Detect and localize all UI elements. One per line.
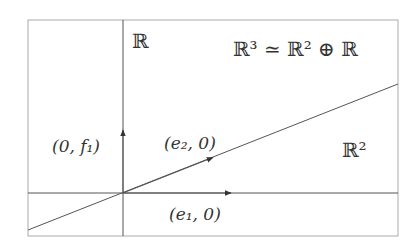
label-plane: ℝ² <box>342 138 367 162</box>
diagram-canvas: ℝ ℝ³ ≃ ℝ² ⊕ ℝ ℝ² (0, f₁) (e₂, 0) (e₁, 0) <box>0 0 416 251</box>
label-horizontal-vector: (e₁, 0) <box>169 204 221 224</box>
label-decomposition: ℝ³ ≃ ℝ² ⊕ ℝ <box>233 37 358 61</box>
label-vertical-vector: (0, f₁) <box>52 136 100 156</box>
vector-e2-arrow <box>123 158 213 194</box>
label-slanted-vector: (e₂, 0) <box>164 133 216 153</box>
label-vertical-axis: ℝ <box>132 29 149 53</box>
